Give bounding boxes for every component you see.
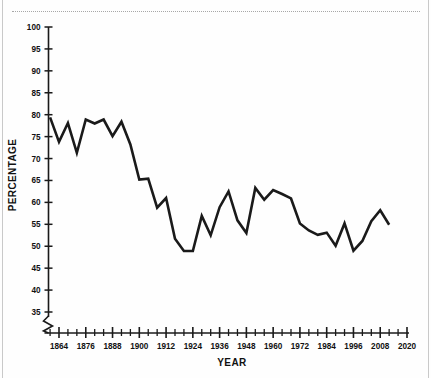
x-tick-label: 1876: [77, 342, 96, 351]
y-tick-label: 40: [31, 286, 41, 295]
y-axis-break-symbol: [44, 316, 53, 333]
y-tick-label: 80: [31, 111, 41, 120]
x-tick-label: 2020: [398, 342, 417, 351]
line-chart-plot: 35404550556065707580859095100 1864187618…: [0, 0, 431, 378]
y-tick-label: 65: [31, 176, 41, 185]
y-tick-label: 95: [31, 45, 41, 54]
x-tick-label: 1948: [237, 342, 256, 351]
x-tick-label: 1924: [184, 342, 203, 351]
chart-figure: 35404550556065707580859095100 1864187618…: [0, 0, 431, 378]
x-tick-label: 2008: [371, 342, 390, 351]
y-tick-label: 35: [31, 308, 41, 317]
x-tick-label: 1960: [264, 342, 283, 351]
y-tick-label: 85: [31, 89, 41, 98]
page-edge-left: [2, 0, 3, 378]
x-tick-label: 1912: [157, 342, 176, 351]
x-tick-label: 1984: [318, 342, 337, 351]
y-tick-label: 45: [31, 264, 41, 273]
x-axis-title: YEAR: [217, 357, 247, 368]
y-tick-label: 70: [31, 155, 41, 164]
page-edge-right: [428, 0, 429, 378]
x-tick-label: 1864: [50, 342, 69, 351]
y-tick-label: 50: [31, 242, 41, 251]
x-tick-label: 1996: [344, 342, 363, 351]
x-tick-label: 1936: [211, 342, 230, 351]
y-tick-label: 55: [31, 220, 41, 229]
y-tick-label: 60: [31, 198, 41, 207]
y-tick-label: 75: [31, 133, 41, 142]
scan-artifact-line: [12, 11, 420, 13]
data-series-line: [50, 117, 389, 251]
x-tick-label: 1972: [291, 342, 310, 351]
y-tick-label: 90: [31, 67, 41, 76]
x-tick-label: 1900: [130, 342, 149, 351]
y-tick-label: 100: [27, 23, 41, 32]
x-tick-label: 1888: [103, 342, 122, 351]
y-axis-title: PERCENTAGE: [7, 139, 18, 212]
x-axis-ticks: 1864187618881900191219241936194819601972…: [50, 327, 417, 351]
